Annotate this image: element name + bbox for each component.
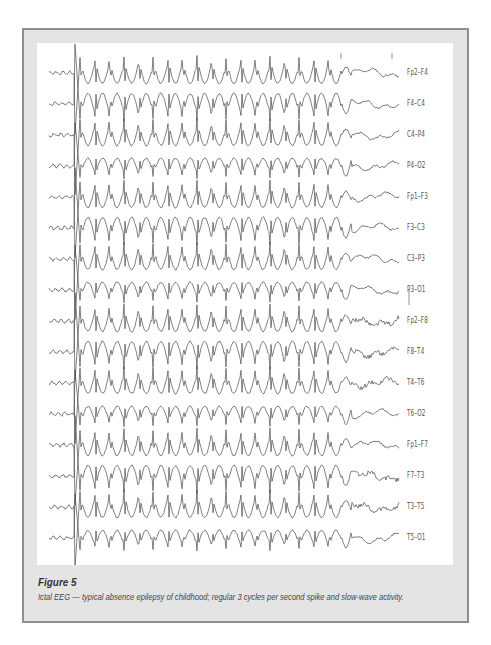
channel-label: T6–O2 (407, 409, 426, 419)
eeg-trace (49, 366, 399, 444)
channel-label: T5–O1 (407, 533, 426, 543)
eeg-trace (49, 56, 399, 135)
eeg-trace (49, 118, 399, 194)
channel-label: P4–O2 (407, 161, 426, 171)
channel-label: Fp2–F4 (407, 68, 428, 78)
channel-label: T4–T6 (407, 378, 425, 388)
figure-caption: Ictal EEG — typical absence epilepsy of … (38, 591, 404, 602)
eeg-plot-panel: Fp2–F4F4–C4C4–P4P4–O2Fp1–F3F3–C3C3–P3P3–… (37, 43, 453, 565)
eeg-trace (49, 123, 399, 179)
channel-label: C4–P4 (407, 130, 425, 140)
eeg-trace (49, 494, 399, 551)
figure-frame: Fp2–F4F4–C4C4–P4P4–O2Fp1–F3F3–C3C3–P3P3–… (22, 28, 469, 623)
channel-label: P3–O1 (407, 285, 426, 295)
channel-label: Fp1–F3 (407, 192, 428, 202)
channel-label: F3–C3 (407, 223, 425, 233)
eeg-trace (49, 246, 399, 303)
channel-label: F4–C4 (407, 99, 425, 109)
eeg-trace (49, 242, 399, 320)
channel-label: Fp1–F7 (407, 440, 428, 450)
channel-label: F7–T3 (407, 471, 424, 481)
eeg-trace (49, 490, 399, 566)
eeg-traces (37, 43, 453, 565)
eeg-trace (49, 370, 399, 427)
channel-label: F8–T4 (407, 347, 424, 357)
channel-label: T3–T5 (407, 502, 425, 512)
figure-title: Figure 5 (38, 576, 77, 588)
channel-label: C3–P3 (407, 254, 425, 264)
channel-label: Fp2–F8 (407, 316, 428, 326)
